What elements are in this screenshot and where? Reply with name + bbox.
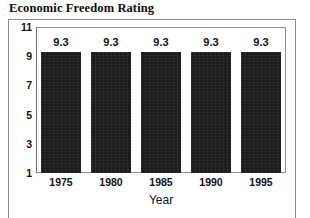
bar-value-label: 9.3	[53, 36, 68, 48]
x-axis-title: Year	[36, 193, 286, 207]
x-axis-tick-label: 1980	[99, 176, 122, 188]
bar	[241, 52, 281, 173]
bar	[141, 52, 181, 173]
x-axis-tick-label: 1985	[149, 176, 172, 188]
bar-value-label: 9.3	[203, 36, 218, 48]
x-axis-tick-label: 1990	[199, 176, 222, 188]
y-axis-tick-label: 9	[26, 50, 32, 62]
y-axis-tick-label: 11	[21, 21, 32, 33]
x-axis-labels: 19751980198519901995	[36, 176, 286, 192]
y-axis-tick-label: 3	[26, 138, 32, 150]
y-axis-tick-label: 7	[26, 79, 32, 91]
bars-layer: 9.39.39.39.39.3	[36, 27, 286, 173]
y-axis-tick-label: 1	[26, 167, 32, 179]
y-axis-tick-label: 5	[26, 109, 32, 121]
bar	[91, 52, 131, 173]
y-axis-labels: 1197531	[12, 27, 32, 173]
chart-title: Economic Freedom Rating	[9, 1, 154, 16]
bar-value-label: 9.3	[103, 36, 118, 48]
bar-value-label: 9.3	[253, 36, 268, 48]
x-axis-tick-label: 1975	[49, 176, 72, 188]
x-axis-tick-label: 1995	[249, 176, 272, 188]
bar	[191, 52, 231, 173]
bar	[41, 52, 81, 173]
bar-value-label: 9.3	[153, 36, 168, 48]
